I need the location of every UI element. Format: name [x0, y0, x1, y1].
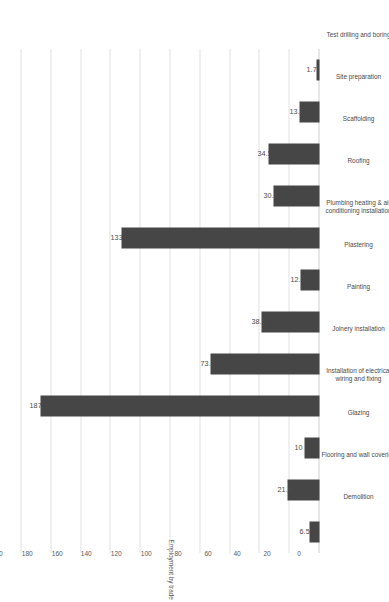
bar-value-label: 187.5: [29, 402, 48, 409]
category-label: Joinery installation: [319, 325, 389, 333]
chart-page: Employment by trade (000's) 020406080100…: [0, 0, 389, 602]
rotated-chart-stage: Employment by trade (000's) 020406080100…: [0, 0, 389, 602]
bar-value-label: 73.3: [200, 360, 214, 367]
value-tick-label: 180: [0, 555, 32, 562]
bar-slot[interactable]: 30.6: [21, 175, 319, 217]
bar[interactable]: [268, 144, 319, 165]
bar[interactable]: [121, 228, 319, 249]
bar-value-label: 12.5: [290, 276, 304, 283]
category-label: Glazing: [319, 409, 389, 417]
bar[interactable]: [304, 438, 319, 459]
bar-value-label: 21.6: [277, 486, 291, 493]
bar-value-label: 6.5: [299, 528, 309, 535]
bar-slot[interactable]: 12.5: [21, 259, 319, 301]
category-label: Painting: [319, 283, 389, 291]
source-caption: Source: Adapted from Construction Statis…: [361, 594, 387, 602]
bar-slot[interactable]: 6.5: [21, 511, 319, 553]
bar-value-label: 13.1: [289, 108, 303, 115]
bar-value-label: 10: [294, 444, 302, 451]
bar-value-label: 1.7: [306, 66, 316, 73]
category-label: Roofing: [319, 157, 389, 165]
value-tick-label: 200: [0, 555, 2, 562]
category-label: Plastering: [319, 241, 389, 249]
bar[interactable]: [40, 396, 319, 417]
category-label: Flooring and wall covering: [319, 451, 389, 459]
plot-area: 6.521.610187.573.338.912.5133.230.634.51…: [21, 49, 319, 553]
category-label: Test drilling and boring: [319, 31, 389, 39]
bar-slot[interactable]: 13.1: [21, 91, 319, 133]
bar-slot[interactable]: 1.7: [21, 49, 319, 91]
bar-slot[interactable]: 133.2: [21, 217, 319, 259]
bar[interactable]: [210, 354, 319, 375]
category-label: Installation of electrical wiring and fi…: [319, 367, 389, 382]
bar-slot[interactable]: 10: [21, 427, 319, 469]
bar-value-label: 133.2: [110, 234, 129, 241]
category-label: Site preparation: [319, 73, 389, 81]
bar[interactable]: [309, 522, 319, 543]
bar-slot[interactable]: 34.5: [21, 133, 319, 175]
bar-slot[interactable]: 21.6: [21, 469, 319, 511]
bar-slot[interactable]: 73.3: [21, 343, 319, 385]
bar-value-label: 38.9: [251, 318, 265, 325]
bar-value-label: 30.6: [263, 192, 277, 199]
category-label: Scaffolding: [319, 115, 389, 123]
bar-chart-figure: Employment by trade (000's) 020406080100…: [0, 0, 389, 602]
value-axis-title: Employment by trade (000's): [21, 574, 319, 586]
bar-value-label: 34.5: [257, 150, 271, 157]
bar-slot[interactable]: 38.9: [21, 301, 319, 343]
category-label: Plumbing heating & air conditioning inst…: [319, 199, 389, 214]
bar[interactable]: [273, 186, 319, 207]
bar[interactable]: [261, 312, 319, 333]
bar-slot[interactable]: 187.5: [21, 385, 319, 427]
category-label: Demolition: [319, 493, 389, 501]
